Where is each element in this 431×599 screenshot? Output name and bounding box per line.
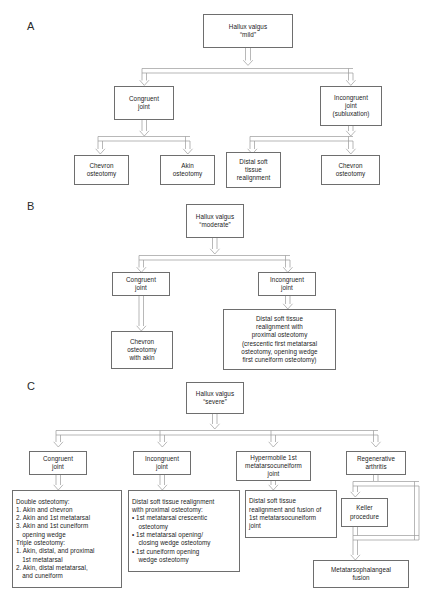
- node-a-leaf1-line1: Chevron: [77, 162, 126, 170]
- node-c-root[interactable]: Hallux valgus “severe”: [186, 382, 244, 414]
- node-b-leafleft-line1: Chevron: [114, 338, 170, 346]
- node-a-root-line2: “mild”: [206, 31, 290, 39]
- node-c-root-line2: “severe”: [189, 398, 241, 406]
- node-a-leaf1-line2: osteotomy: [77, 170, 126, 178]
- node-c-distal-soft-tissue-fusion[interactable]: Distal soft tissue realignment and fusio…: [245, 490, 337, 538]
- node-c-leaf3-lines: Distal soft tissue realignment and fusio…: [249, 497, 333, 530]
- node-b-incongruent-line1: Incongruent: [261, 276, 313, 284]
- node-b-leafright-line4: (crescentic first metatarsal: [226, 340, 333, 348]
- node-c-leaf2-line3: • 1st metatarsal crescentic: [132, 514, 236, 522]
- node-c-branch4-line1: Regenerative: [349, 455, 403, 463]
- node-c-root-line1: Hallux valgus: [189, 390, 241, 398]
- node-c-distal-soft-tissue-proximal-osteotomy-list[interactable]: Distal soft tissue realignment with prox…: [128, 490, 240, 572]
- node-c-leaf1-line1: Double osteotomy:: [16, 498, 118, 506]
- node-a-leaf4-line2: osteotomy: [324, 170, 377, 178]
- node-c-leaf1-line2: 1. Akin and chevron: [16, 506, 118, 514]
- node-c-leaf2-line1: Distal soft tissue realignment: [132, 498, 236, 506]
- node-b-chevron-osteotomy-with-akin[interactable]: Chevron osteotomy with akin: [111, 331, 173, 369]
- node-c-leaf1-line5: opening wedge: [16, 531, 118, 539]
- node-c-branch3-line1: Hypermobile 1st: [239, 454, 308, 462]
- node-c-leaf2-lines: Distal soft tissue realignment with prox…: [132, 498, 236, 564]
- node-c-leaf1-line10: and cuneiform: [16, 572, 118, 580]
- node-c-leaf2-line8: wedge osteotomy: [132, 556, 236, 564]
- node-c-branch1-line2: joint: [32, 463, 84, 471]
- node-a-leaf3-line1: Distal soft: [229, 158, 278, 166]
- flowchart-canvas: A Hallux valgus “mild” Congruent joint I…: [0, 0, 431, 599]
- node-a-chevron-osteotomy-left[interactable]: Chevron osteotomy: [74, 155, 129, 185]
- node-c-branch2-line2: joint: [136, 463, 188, 471]
- node-b-congruent-line1: Congruent: [115, 276, 167, 284]
- node-a-incongruent-line2: joint: [323, 102, 379, 110]
- node-b-distal-soft-tissue-proximal-osteotomy[interactable]: Distal soft tissue realignment with prox…: [223, 309, 336, 370]
- node-c-metatarsophalangeal-fusion[interactable]: Metatarsophalangeal fusion: [313, 560, 409, 588]
- node-b-root-line1: Hallux valgus: [189, 213, 241, 221]
- node-c-leaf3-line3: 1st metatarsocuneiform: [249, 514, 333, 522]
- node-a-leaf4-line1: Chevron: [324, 162, 377, 170]
- node-c-leaf1-line8: 1st metatarsal: [16, 556, 118, 564]
- node-c-leaf2-line6: closing wedge osteotomy: [132, 539, 236, 547]
- node-b-incongruent-line2: joint: [261, 284, 313, 292]
- node-c-leaf2-line2: with proximal osteotomy:: [132, 506, 236, 514]
- node-b-leafright-line5: osteotomy, opening wedge: [226, 348, 333, 356]
- node-b-incongruent-joint[interactable]: Incongruent joint: [258, 272, 316, 296]
- node-c-congruent-joint[interactable]: Congruent joint: [29, 451, 87, 475]
- node-b-leafright-line3: proximal osteotomy: [226, 331, 333, 339]
- node-a-root[interactable]: Hallux valgus “mild”: [203, 14, 293, 48]
- node-c-leaf5-line1: Metatarsophalangeal: [316, 566, 406, 574]
- node-a-leaf3-line2: tissue: [229, 166, 278, 174]
- node-a-incongruent-line3: (subluxation): [323, 110, 379, 118]
- node-a-distal-soft-tissue-realignment[interactable]: Distal soft tissue realignment: [226, 152, 281, 188]
- node-c-leaf2-line5: • 1st metatarsal opening/: [132, 531, 236, 539]
- node-a-leaf2-line1: Akin: [163, 162, 212, 170]
- node-b-root[interactable]: Hallux valgus “moderate”: [186, 204, 244, 238]
- node-a-leaf3-line3: realignment: [229, 174, 278, 182]
- node-a-chevron-osteotomy-right[interactable]: Chevron osteotomy: [321, 155, 380, 185]
- node-c-leaf5-line2: fusion: [316, 574, 406, 582]
- node-a-root-line1: Hallux valgus: [206, 23, 290, 31]
- node-c-leaf1-lines: Double osteotomy: 1. Akin and chevron 2.…: [16, 498, 118, 581]
- node-c-leaf1-line9: 2. Akin, distal metatarsal,: [16, 564, 118, 572]
- node-c-keller-procedure[interactable]: Keller procedure: [341, 498, 388, 527]
- node-a-incongruent-line1: Incongruent: [323, 94, 379, 102]
- node-c-leaf3-line4: joint: [249, 522, 333, 530]
- node-c-leaf2-line4: osteotomy: [132, 523, 236, 531]
- node-a-congruent-line1: Congruent: [117, 95, 171, 103]
- panel-letter-b: B: [27, 200, 34, 212]
- node-b-congruent-joint[interactable]: Congruent joint: [112, 272, 170, 296]
- node-c-branch3-line3: joint: [239, 470, 308, 478]
- node-c-leaf3-line1: Distal soft tissue: [249, 497, 333, 505]
- node-c-leaf4-line1: Keller: [344, 504, 385, 512]
- node-c-leaf1-line4: 3. Akin and 1st cuneiform: [16, 522, 118, 530]
- node-c-leaf1-line6: Triple osteotomy:: [16, 539, 118, 547]
- node-c-branch4-line2: arthritis: [349, 463, 403, 471]
- node-b-root-line2: “moderate”: [189, 221, 241, 229]
- node-b-leafleft-line2: osteotomy: [114, 346, 170, 354]
- node-a-incongruent-joint[interactable]: Incongruent joint (subluxation): [320, 86, 382, 126]
- node-c-leaf1-line7: 1. Akin, distal, and proximal: [16, 547, 118, 555]
- node-a-congruent-joint[interactable]: Congruent joint: [114, 86, 174, 120]
- node-c-branch1-line1: Congruent: [32, 455, 84, 463]
- node-a-akin-osteotomy[interactable]: Akin osteotomy: [160, 155, 215, 185]
- node-b-leafright-line6: first cuneiform osteotomy): [226, 356, 333, 364]
- node-c-leaf3-line2: realignment and fusion of: [249, 506, 333, 514]
- node-c-leaf2-line7: • 1st cuneiform opening: [132, 548, 236, 556]
- node-b-leafleft-line3: with akin: [114, 354, 170, 362]
- node-c-branch2-line1: Incongruent: [136, 455, 188, 463]
- node-c-leaf1-line3: 2. Akin and 1st metatarsal: [16, 514, 118, 522]
- node-c-hypermobile-1st-metatarsocuneiform-joint[interactable]: Hypermobile 1st metatarsocuneiform joint: [236, 451, 311, 481]
- node-b-leafright-line1: Distal soft tissue: [226, 315, 333, 323]
- node-c-double-triple-osteotomy-list[interactable]: Double osteotomy: 1. Akin and chevron 2.…: [12, 490, 122, 588]
- panel-letter-a: A: [27, 20, 34, 32]
- node-c-regenerative-arthritis[interactable]: Regenerative arthritis: [346, 451, 406, 475]
- node-a-leaf2-line2: osteotomy: [163, 170, 212, 178]
- node-a-congruent-line2: joint: [117, 103, 171, 111]
- panel-letter-c: C: [27, 380, 35, 392]
- node-b-congruent-line2: joint: [115, 284, 167, 292]
- node-b-leafright-line2: realignment with: [226, 323, 333, 331]
- node-c-branch3-line2: metatarsocuneiform: [239, 462, 308, 470]
- node-c-leaf4-line2: procedure: [344, 513, 385, 521]
- node-c-incongruent-joint[interactable]: Incongruent joint: [133, 451, 191, 475]
